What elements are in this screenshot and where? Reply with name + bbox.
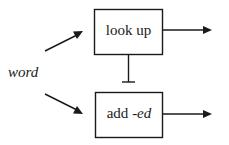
arrow-look-up-output: [163, 26, 212, 34]
arrow-word-to-add-ed: [45, 94, 83, 114]
look-up-label: look up: [106, 22, 151, 38]
arrowhead-icon: [73, 31, 83, 39]
add-ed-label-suffix: -ed: [132, 105, 152, 121]
node-look-up: look up: [95, 10, 163, 55]
arrowhead-icon: [203, 26, 212, 34]
word-processing-diagram: word look up add -ed: [0, 0, 229, 145]
add-ed-label: add -ed: [107, 105, 152, 121]
add-ed-label-prefix: add: [107, 105, 132, 121]
inhibit-look-up-to-add-ed: [122, 55, 135, 82]
arrow-add-ed-output: [163, 110, 212, 118]
arrowhead-icon: [203, 110, 212, 118]
arrow-word-to-look-up: [45, 31, 83, 51]
input-label-word: word: [8, 64, 39, 80]
arrowhead-icon: [73, 106, 83, 114]
node-add-ed: add -ed: [96, 93, 163, 138]
